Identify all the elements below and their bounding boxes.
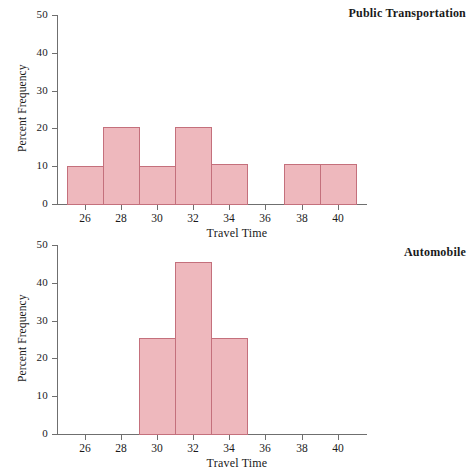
y-tick-label-public-10: 10	[22, 160, 48, 171]
x-tick-label-public-28: 28	[106, 212, 136, 224]
panel-title-automobile: Automobile	[404, 245, 466, 260]
histogram-bar	[211, 164, 248, 205]
y-tick-label-public-40: 40	[22, 47, 48, 58]
x-tick-label-auto-30: 30	[142, 442, 172, 454]
y-tick-auto-40	[52, 283, 58, 284]
y-tick-label-auto-0: 0	[22, 428, 48, 439]
y-tick-label-wrap-auto-50: 50	[18, 239, 48, 250]
x-tick-label-public-32: 32	[178, 212, 208, 224]
chart-panel-automobile: Automobile Percent Frequency Travel Time…	[0, 237, 474, 475]
x-tick-public-30	[157, 205, 158, 210]
x-axis-title-automobile: Travel Time	[0, 456, 474, 471]
x-tick-public-40	[338, 205, 339, 210]
x-tick-auto-34	[229, 435, 230, 440]
histogram-bar	[320, 164, 357, 205]
histogram-bar	[284, 164, 321, 205]
y-tick-public-40	[52, 53, 58, 54]
plot-area-automobile: Automobile Percent Frequency Travel Time…	[0, 237, 474, 475]
y-tick-label-wrap-public-30: 30	[18, 85, 48, 96]
x-tick-label-auto-40: 40	[323, 442, 353, 454]
chart-panel-public-transportation: Public Transportation Percent Frequency …	[0, 0, 474, 238]
x-tick-public-28	[121, 205, 122, 210]
y-tick-auto-0	[52, 434, 58, 435]
x-tick-label-public-40: 40	[323, 212, 353, 224]
x-tick-label-public-36: 36	[250, 212, 280, 224]
histogram-bar	[175, 127, 212, 205]
y-tick-label-auto-30: 30	[22, 315, 48, 326]
y-tick-label-wrap-auto-10: 10	[18, 390, 48, 401]
y-tick-label-public-20: 20	[22, 122, 48, 133]
x-tick-auto-36	[265, 435, 266, 440]
y-tick-label-public-50: 50	[22, 9, 48, 20]
y-tick-public-20	[52, 128, 58, 129]
x-tick-auto-26	[85, 435, 86, 440]
y-tick-label-wrap-public-40: 40	[18, 47, 48, 58]
y-tick-auto-20	[52, 358, 58, 359]
x-tick-auto-30	[157, 435, 158, 440]
y-tick-label-public-30: 30	[22, 85, 48, 96]
y-axis-line-public	[57, 15, 58, 204]
x-tick-auto-40	[338, 435, 339, 440]
y-axis-line-auto	[57, 245, 58, 434]
figure-root: Public Transportation Percent Frequency …	[0, 0, 474, 475]
y-tick-public-50	[52, 15, 58, 16]
x-tick-label-auto-38: 38	[287, 442, 317, 454]
y-tick-label-wrap-public-50: 50	[18, 9, 48, 20]
y-tick-label-wrap-auto-30: 30	[18, 315, 48, 326]
y-tick-label-wrap-public-10: 10	[18, 160, 48, 171]
y-tick-public-0	[52, 204, 58, 205]
x-tick-auto-32	[193, 435, 194, 440]
y-tick-label-public-0: 0	[22, 198, 48, 209]
y-tick-label-auto-10: 10	[22, 390, 48, 401]
x-tick-label-public-38: 38	[287, 212, 317, 224]
y-tick-public-30	[52, 91, 58, 92]
x-tick-label-auto-32: 32	[178, 442, 208, 454]
y-tick-auto-50	[52, 245, 58, 246]
y-tick-label-wrap-auto-20: 20	[18, 352, 48, 363]
plot-area-public-transportation: Public Transportation Percent Frequency …	[0, 0, 474, 238]
x-tick-label-public-30: 30	[142, 212, 172, 224]
x-tick-public-36	[265, 205, 266, 210]
x-tick-label-public-34: 34	[214, 212, 244, 224]
y-axis-title-public-transportation: Percent Frequency	[16, 64, 28, 152]
histogram-bar	[67, 166, 104, 205]
x-tick-public-32	[193, 205, 194, 210]
x-tick-label-auto-36: 36	[250, 442, 280, 454]
x-tick-public-38	[302, 205, 303, 210]
x-tick-public-26	[85, 205, 86, 210]
histogram-bar	[175, 262, 212, 435]
x-tick-auto-28	[121, 435, 122, 440]
histogram-bar	[139, 166, 176, 205]
y-tick-label-auto-40: 40	[22, 277, 48, 288]
histogram-bar	[211, 338, 248, 435]
panel-title-public-transportation: Public Transportation	[349, 6, 466, 21]
x-tick-label-public-26: 26	[70, 212, 100, 224]
y-tick-auto-30	[52, 321, 58, 322]
histogram-bar	[103, 127, 140, 205]
y-tick-label-auto-20: 20	[22, 352, 48, 363]
y-tick-label-wrap-public-0: 0	[18, 198, 48, 209]
y-tick-auto-10	[52, 396, 58, 397]
x-tick-public-34	[229, 205, 230, 210]
y-tick-label-wrap-auto-40: 40	[18, 277, 48, 288]
y-tick-label-wrap-auto-0: 0	[18, 428, 48, 439]
x-tick-auto-38	[302, 435, 303, 440]
y-tick-label-auto-50: 50	[22, 239, 48, 250]
y-tick-public-10	[52, 166, 58, 167]
x-tick-label-auto-26: 26	[70, 442, 100, 454]
histogram-bar	[139, 338, 176, 435]
y-axis-title-automobile: Percent Frequency	[16, 294, 28, 382]
y-tick-label-wrap-public-20: 20	[18, 122, 48, 133]
x-tick-label-auto-28: 28	[106, 442, 136, 454]
x-tick-label-auto-34: 34	[214, 442, 244, 454]
